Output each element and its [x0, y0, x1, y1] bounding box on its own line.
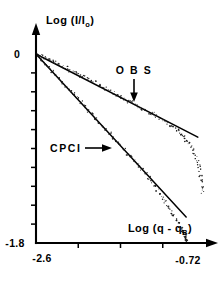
- data-point: [147, 178, 149, 180]
- data-point: [152, 112, 153, 113]
- data-point: [161, 196, 162, 197]
- data-point: [183, 230, 184, 231]
- data-point: [44, 64, 45, 65]
- data-point: [79, 77, 80, 78]
- data-point: [98, 86, 99, 87]
- data-point: [155, 185, 157, 187]
- data-point: [164, 120, 165, 121]
- data-point: [179, 132, 180, 133]
- data-point: [126, 154, 127, 155]
- data-point: [185, 239, 187, 241]
- data-point: [180, 134, 182, 136]
- data-point: [53, 70, 54, 71]
- data-point: [186, 237, 187, 238]
- data-point: [139, 165, 140, 166]
- data-point: [155, 116, 156, 117]
- data-point: [201, 193, 202, 194]
- data-point: [38, 56, 39, 57]
- data-point: [61, 82, 63, 84]
- data-point: [84, 107, 85, 108]
- data-point: [154, 112, 155, 113]
- data-point: [51, 62, 52, 63]
- data-point: [183, 234, 184, 235]
- data-point: [168, 207, 170, 209]
- data-point: [127, 102, 128, 103]
- data-point: [140, 170, 141, 171]
- data-point: [104, 89, 105, 90]
- data-point: [166, 205, 167, 206]
- data-point: [189, 142, 190, 143]
- data-point: [139, 166, 140, 167]
- data-point: [102, 126, 104, 128]
- data-point: [54, 62, 56, 64]
- data-point: [114, 91, 115, 92]
- data-point: [88, 109, 89, 110]
- data-point: [199, 164, 200, 165]
- data-point: [178, 129, 180, 131]
- data-point: [158, 188, 159, 189]
- data-point: [63, 65, 64, 66]
- data-point: [106, 89, 107, 90]
- data-point: [83, 75, 84, 76]
- data-point: [137, 163, 138, 164]
- data-point: [160, 117, 161, 118]
- data-point: [91, 112, 92, 113]
- data-point: [127, 101, 128, 102]
- data-point: [123, 99, 124, 100]
- data-point: [73, 71, 74, 72]
- data-point: [164, 202, 165, 203]
- data-point: [123, 148, 124, 149]
- data-point: [80, 103, 81, 104]
- data-point: [103, 87, 104, 88]
- data-point: [145, 172, 146, 173]
- data-point: [196, 160, 197, 161]
- data-point: [144, 173, 145, 174]
- data-point: [125, 148, 126, 149]
- data-point: [69, 69, 70, 70]
- data-point: [132, 156, 133, 157]
- data-point: [167, 122, 168, 123]
- data-point: [189, 143, 190, 144]
- data-point: [176, 219, 177, 220]
- data-point: [49, 68, 51, 70]
- data-point: [112, 139, 113, 140]
- data-point: [59, 78, 60, 79]
- data-point: [155, 190, 157, 192]
- data-point: [158, 118, 159, 119]
- data-point: [197, 162, 198, 163]
- data-point: [68, 69, 69, 70]
- data-point: [130, 155, 131, 156]
- data-point: [137, 107, 138, 108]
- data-point: [167, 206, 168, 207]
- data-point: [59, 65, 60, 66]
- data-point: [128, 100, 130, 102]
- data-point: [162, 120, 163, 121]
- data-point: [38, 54, 39, 55]
- data-point: [116, 96, 117, 97]
- data-point: [77, 96, 78, 97]
- data-point: [95, 80, 96, 81]
- data-point: [76, 71, 77, 72]
- data-point: [78, 98, 79, 99]
- data-point: [169, 209, 170, 210]
- data-point: [59, 63, 60, 64]
- data-point: [76, 97, 77, 98]
- data-point: [201, 175, 203, 177]
- data-point: [152, 114, 153, 115]
- data-point: [78, 73, 79, 74]
- data-point: [193, 148, 194, 149]
- data-point: [120, 97, 122, 99]
- data-point: [195, 158, 196, 159]
- data-point: [151, 114, 152, 115]
- data-point: [179, 222, 180, 223]
- data-point: [108, 89, 109, 90]
- data-point: [115, 141, 116, 142]
- data-point: [186, 234, 187, 235]
- data-point: [135, 104, 136, 105]
- data-point: [87, 110, 88, 111]
- data-point: [146, 172, 147, 173]
- data-point: [183, 231, 184, 232]
- data-point: [144, 110, 145, 111]
- data-point: [62, 67, 63, 68]
- data-point: [151, 182, 152, 183]
